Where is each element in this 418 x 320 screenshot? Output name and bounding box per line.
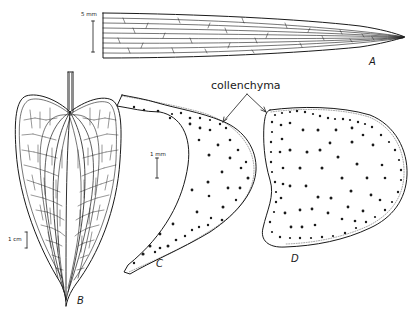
panel-d-vascular-bundles xyxy=(269,110,402,239)
panel-c-vascular-bundles xyxy=(133,106,250,264)
panel-b-label: B xyxy=(77,295,84,306)
panel-b-scale-label: 1 cm xyxy=(8,236,22,242)
panel-c-scale-bar xyxy=(156,158,159,178)
panel-c-scale-label: 1 mm xyxy=(150,151,166,157)
panel-a-label: A xyxy=(369,56,376,67)
panel-c-label: C xyxy=(156,258,163,269)
panel-c-cross-section xyxy=(117,95,256,274)
panel-b-scale-bar xyxy=(25,232,27,248)
collenchyma-pointer-arrows xyxy=(223,94,266,122)
figure-canvas xyxy=(0,0,418,320)
collenchyma-callout-label: collenchyma xyxy=(211,79,281,92)
panel-a-scale-bar xyxy=(92,21,95,52)
panel-d-label: D xyxy=(291,253,299,264)
panel-a-leaf-drawing xyxy=(103,13,405,58)
panel-a-scale-label: 5 mm xyxy=(81,11,97,17)
panel-b-leaf-drawing xyxy=(15,72,121,306)
